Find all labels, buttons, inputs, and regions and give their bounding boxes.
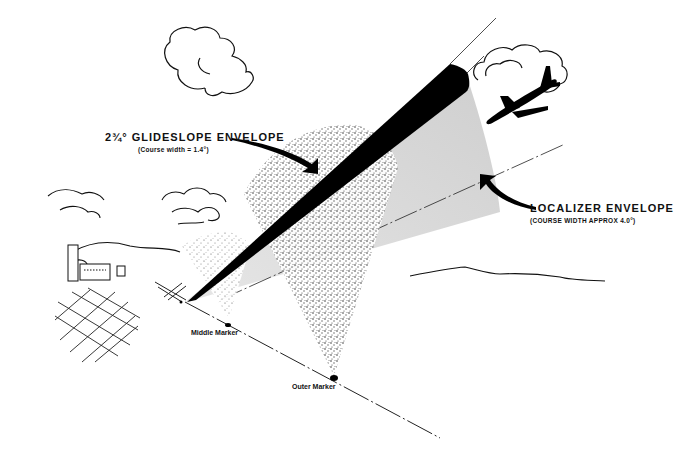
horizon-line xyxy=(410,267,605,281)
cloud-icon xyxy=(48,190,104,218)
glideslope-label: 2¾° GLIDESLOPE ENVELOPE xyxy=(105,131,285,143)
horizon-line xyxy=(72,243,180,252)
cloud-icon xyxy=(165,27,253,95)
middle-marker-cone xyxy=(182,232,250,318)
glideslope-sublabel: (Course width = 1.4°) xyxy=(138,146,209,153)
outer-marker-dot xyxy=(330,375,338,381)
localizer-edge xyxy=(466,56,484,74)
middle-marker-dot xyxy=(225,323,231,327)
localizer-sublabel: (COURSE WIDTH APPROX 4.0°) xyxy=(530,217,636,224)
aircraft-icon xyxy=(486,66,560,124)
runway xyxy=(155,282,186,302)
airport-buildings xyxy=(68,245,125,281)
taxiway-grid xyxy=(55,288,140,362)
localizer-label: LOCALIZER ENVELOPE xyxy=(530,202,674,214)
outer-marker-label: Outer Marker xyxy=(292,383,336,390)
cloud-icon xyxy=(162,188,226,224)
runway-threshold-dot xyxy=(180,301,183,304)
glideslope-edge xyxy=(450,18,496,64)
middle-marker-label: Middle Marker xyxy=(191,329,238,336)
